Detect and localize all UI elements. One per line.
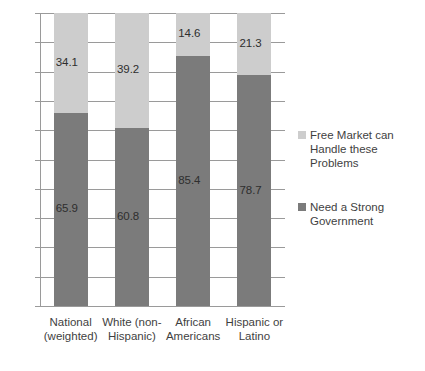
gridline-0 xyxy=(40,306,285,307)
x-axis-label-line: Hispanic or xyxy=(220,315,289,329)
x-axis-label-line: (weighted) xyxy=(36,329,105,343)
legend-label: Free Market canHandle these Problems xyxy=(310,128,423,170)
x-axis-labels: National(weighted)White (non-Hispanic)Af… xyxy=(40,311,285,357)
x-axis-label-line: National xyxy=(36,315,105,329)
legend-label: Need a StrongGovernment xyxy=(310,200,384,228)
bar-column[interactable] xyxy=(237,13,271,306)
x-axis-label-line: African xyxy=(159,315,228,329)
legend-swatch-icon xyxy=(298,131,306,139)
bar-column[interactable] xyxy=(115,13,149,306)
plot-area: 65.934.160.839.285.414.678.721.3 xyxy=(40,13,285,306)
bottom-caption xyxy=(0,363,425,371)
data-label-free-market: 21.3 xyxy=(239,38,261,50)
data-label-free-market: 14.6 xyxy=(178,28,200,40)
y-axis-line xyxy=(40,13,41,307)
legend-item-free-market[interactable]: Free Market canHandle these Problems xyxy=(298,128,423,170)
legend-label-line: Government xyxy=(310,214,384,228)
x-axis-label-line: Hispanic) xyxy=(97,329,166,343)
legend-swatch-icon xyxy=(298,203,306,211)
x-axis-category-label: AfricanAmericans xyxy=(159,315,228,343)
data-label-strong-government: 85.4 xyxy=(178,175,200,187)
x-axis-label-line: Americans xyxy=(159,329,228,343)
bar-column[interactable] xyxy=(176,13,210,306)
data-label-strong-government: 65.9 xyxy=(56,203,78,215)
x-axis-category-label: White (non-Hispanic) xyxy=(97,315,166,343)
legend-label-line: Free Market can xyxy=(310,128,423,142)
x-axis-label-line: White (non- xyxy=(97,315,166,329)
legend-label-line: Handle these Problems xyxy=(310,142,423,170)
data-label-strong-government: 78.7 xyxy=(239,185,261,197)
x-axis-category-label: National(weighted) xyxy=(36,315,105,343)
legend-label-line: Need a Strong xyxy=(310,200,384,214)
stacked-bar-chart: 65.934.160.839.285.414.678.721.3 0%10%20… xyxy=(0,0,425,371)
data-label-strong-government: 60.8 xyxy=(117,211,139,223)
x-axis-category-label: Hispanic orLatino xyxy=(220,315,289,343)
x-axis-label-line: Latino xyxy=(220,329,289,343)
legend-item-strong-government[interactable]: Need a StrongGovernment xyxy=(298,200,384,228)
data-label-free-market: 39.2 xyxy=(117,64,139,76)
data-label-free-market: 34.1 xyxy=(56,57,78,69)
